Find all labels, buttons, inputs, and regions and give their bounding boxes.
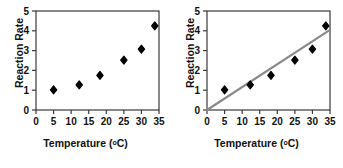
- x-axis-label-right-text: Temperature (: [214, 137, 283, 149]
- x-tick-label: 30: [307, 116, 319, 127]
- x-axis-label-left: Temperature (oC): [0, 137, 171, 149]
- x-axis-label-left-unit: C): [117, 137, 128, 149]
- plot-frame: [207, 11, 330, 110]
- x-tick-label: 25: [289, 116, 301, 127]
- x-tick-label: 15: [254, 116, 266, 127]
- two-panel-scatter-figure: 01234505101520253035 Reaction Rate Tempe…: [0, 0, 343, 168]
- chart-panel-right: 01234505101520253035 Reaction Rate Tempe…: [171, 0, 342, 168]
- y-axis-label-left: Reaction Rate: [13, 3, 25, 103]
- x-tick-label: 5: [222, 116, 228, 127]
- x-tick-label: 35: [153, 116, 165, 127]
- x-tick-label: 35: [324, 116, 336, 127]
- plot-frame: [36, 11, 159, 110]
- x-tick-label: 20: [272, 116, 284, 127]
- x-tick-label: 20: [101, 116, 113, 127]
- x-tick-label: 0: [204, 116, 210, 127]
- y-tick-label: 0: [23, 105, 29, 116]
- x-tick-label: 30: [136, 116, 148, 127]
- x-tick-label: 15: [83, 116, 95, 127]
- x-axis-label-right: Temperature (oC): [171, 137, 342, 149]
- x-tick-label: 5: [51, 116, 57, 127]
- x-axis-label-right-unit: C): [288, 137, 299, 149]
- x-tick-label: 10: [237, 116, 249, 127]
- y-axis-label-right: Reaction Rate: [184, 3, 196, 103]
- x-tick-label: 10: [66, 116, 78, 127]
- chart-panel-left: 01234505101520253035 Reaction Rate Tempe…: [0, 0, 171, 168]
- x-tick-label: 25: [118, 116, 130, 127]
- x-tick-label: 0: [33, 116, 39, 127]
- x-axis-label-left-text: Temperature (: [43, 137, 112, 149]
- y-tick-label: 0: [194, 105, 200, 116]
